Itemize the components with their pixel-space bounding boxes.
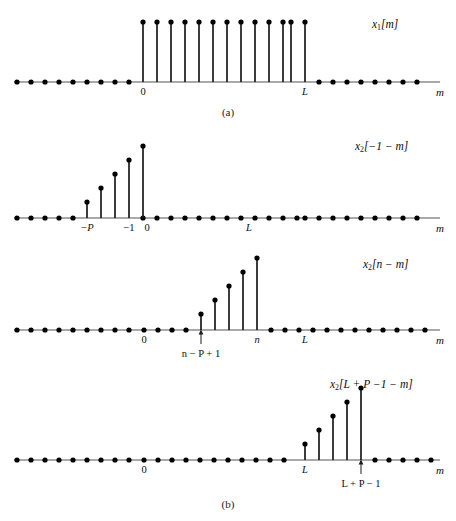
sample-dot bbox=[428, 457, 433, 462]
sample-dot bbox=[84, 327, 89, 332]
sample-dot bbox=[252, 215, 257, 220]
sample-dot bbox=[28, 457, 33, 462]
sample-dot bbox=[155, 327, 160, 332]
sample-dot bbox=[98, 457, 103, 462]
sample-dot bbox=[56, 457, 61, 462]
sample-dot bbox=[280, 215, 285, 220]
sample-dot bbox=[400, 215, 405, 220]
sample-dot bbox=[112, 79, 117, 84]
sample-dot bbox=[28, 327, 33, 332]
stem-head-dot bbox=[210, 19, 215, 24]
sample-dot bbox=[169, 327, 174, 332]
panel-b3-tick-0: 0 bbox=[141, 464, 146, 475]
sample-dot bbox=[197, 457, 202, 462]
stem-head-dot bbox=[196, 19, 201, 24]
sample-dot bbox=[84, 79, 89, 84]
sample-dot bbox=[400, 457, 405, 462]
stem-head-dot bbox=[252, 19, 257, 24]
sample-dot bbox=[70, 457, 75, 462]
stem-head-dot bbox=[316, 427, 321, 432]
sample-dot bbox=[414, 215, 419, 220]
sample-dot bbox=[324, 327, 329, 332]
panel-b2-annotation-label: n − P + 1 bbox=[182, 348, 220, 359]
stem-head-dot bbox=[212, 297, 217, 302]
stem-head-dot bbox=[344, 399, 349, 404]
sample-dot bbox=[14, 79, 19, 84]
signal-figure: x1[m]m0Lx2[−1 − m]m−P−10Lx2[n − m]m0nLn … bbox=[0, 0, 456, 521]
stem-head-dot bbox=[112, 171, 117, 176]
sample-dot bbox=[386, 215, 391, 220]
panel-a-axis-variable: m bbox=[436, 86, 444, 98]
sample-dot bbox=[126, 79, 131, 84]
sample-dot bbox=[338, 327, 343, 332]
sample-dot bbox=[316, 215, 321, 220]
panel-a-plot bbox=[0, 0, 456, 100]
sample-dot bbox=[372, 457, 377, 462]
sample-dot bbox=[84, 457, 89, 462]
sample-dot bbox=[42, 215, 47, 220]
panel-a-signal-label: x1[m] bbox=[372, 18, 398, 32]
sample-dot bbox=[296, 327, 301, 332]
sample-dot bbox=[141, 327, 146, 332]
sample-dot bbox=[112, 327, 117, 332]
stem-head-dot bbox=[280, 19, 285, 24]
sample-dot bbox=[238, 215, 243, 220]
sample-dot bbox=[422, 327, 427, 332]
stem-head-dot bbox=[84, 199, 89, 204]
sample-dot bbox=[14, 215, 19, 220]
panel-a-tick-0: 0 bbox=[140, 86, 145, 97]
panel-b1-tick-L: L bbox=[246, 222, 252, 233]
figure-caption-a: (a) bbox=[0, 106, 456, 118]
sample-dot bbox=[56, 215, 61, 220]
sample-dot bbox=[386, 457, 391, 462]
sample-dot bbox=[28, 79, 33, 84]
stem-head-dot bbox=[266, 19, 271, 24]
stem-head-dot bbox=[238, 19, 243, 24]
sample-dot bbox=[225, 457, 230, 462]
sample-dot bbox=[414, 457, 419, 462]
sample-dot bbox=[344, 79, 349, 84]
sample-dot bbox=[372, 79, 377, 84]
stem-head-dot bbox=[288, 19, 293, 24]
panel-b3-annotation-label: L + P − 1 bbox=[341, 478, 380, 489]
sample-dot bbox=[14, 327, 19, 332]
stem-head-dot bbox=[168, 19, 173, 24]
sample-dot bbox=[394, 327, 399, 332]
stem-head-dot bbox=[140, 19, 145, 24]
sample-dot bbox=[302, 215, 307, 220]
sample-dot bbox=[28, 215, 33, 220]
stem-head-dot bbox=[302, 441, 307, 446]
sample-dot bbox=[211, 457, 216, 462]
sample-dot bbox=[386, 79, 391, 84]
sample-dot bbox=[126, 327, 131, 332]
sample-dot bbox=[239, 457, 244, 462]
sample-dot bbox=[183, 327, 188, 332]
sample-dot bbox=[253, 457, 258, 462]
stem-head-dot bbox=[98, 185, 103, 190]
stem-head-dot bbox=[182, 19, 187, 24]
sample-dot bbox=[14, 457, 19, 462]
sample-dot bbox=[42, 327, 47, 332]
sample-dot bbox=[168, 215, 173, 220]
stem-head-dot bbox=[254, 255, 259, 260]
sample-dot bbox=[330, 79, 335, 84]
sample-dot bbox=[267, 457, 272, 462]
sample-dot bbox=[294, 215, 299, 220]
sample-dot bbox=[98, 327, 103, 332]
panel-b2-tick-L: L bbox=[302, 334, 308, 345]
sample-dot bbox=[70, 327, 75, 332]
sample-dot bbox=[126, 457, 131, 462]
stem-head-dot bbox=[224, 19, 229, 24]
sample-dot bbox=[154, 215, 159, 220]
panel-b3-axis-variable: m bbox=[436, 464, 444, 476]
sample-dot bbox=[358, 79, 363, 84]
sample-dot bbox=[344, 215, 349, 220]
panel-b2-tick-0: 0 bbox=[141, 334, 146, 345]
stem-head-dot bbox=[154, 19, 159, 24]
sample-dot bbox=[210, 215, 215, 220]
sample-dot bbox=[310, 327, 315, 332]
sample-dot bbox=[268, 327, 273, 332]
sample-dot bbox=[70, 79, 75, 84]
sample-dot bbox=[112, 457, 117, 462]
sample-dot bbox=[196, 215, 201, 220]
